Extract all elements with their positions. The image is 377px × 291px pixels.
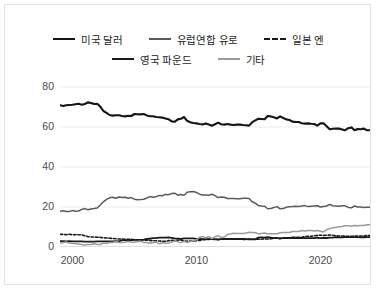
legend-label-other: 기타 xyxy=(246,52,266,67)
x-tick-label: 2000 xyxy=(52,254,92,266)
series-line-유럽연합 유로 xyxy=(60,192,370,212)
legend-item-jpy[interactable]: 일본 엔 xyxy=(264,32,324,47)
y-tick-label: 60 xyxy=(28,120,54,132)
legend-item-eur[interactable]: 유럽연합 유로 xyxy=(149,32,239,47)
legend-swatch-jpy xyxy=(264,38,286,40)
legend-row-2: 영국 파운드 기타 xyxy=(5,49,372,69)
legend-label-eur: 유럽연합 유로 xyxy=(177,32,239,47)
y-tick-label: 20 xyxy=(28,200,54,212)
legend-swatch-usd xyxy=(53,38,75,40)
legend-swatch-eur xyxy=(149,38,171,40)
y-tick-label: 40 xyxy=(28,160,54,172)
chart-screenshot: 미국 달러 유럽연합 유로 일본 엔 영국 파운드 기타 xyxy=(0,0,377,291)
series-line-미국 달러 xyxy=(60,102,370,130)
legend-label-gbp: 영국 파운드 xyxy=(140,52,192,67)
chart-canvas xyxy=(60,75,370,247)
y-tick-label: 80 xyxy=(28,80,54,92)
legend-label-jpy: 일본 엔 xyxy=(292,32,324,47)
chart-frame: 미국 달러 유럽연합 유로 일본 엔 영국 파운드 기타 xyxy=(4,4,371,285)
chart-legend: 미국 달러 유럽연합 유로 일본 엔 영국 파운드 기타 xyxy=(5,29,372,69)
legend-item-gbp[interactable]: 영국 파운드 xyxy=(112,52,192,67)
plot-area xyxy=(60,75,370,247)
legend-swatch-other xyxy=(218,58,240,60)
legend-row-1: 미국 달러 유럽연합 유로 일본 엔 xyxy=(5,29,372,49)
x-tick-label: 2010 xyxy=(176,254,216,266)
legend-swatch-gbp xyxy=(112,58,134,60)
x-tick-label: 2020 xyxy=(300,254,340,266)
y-tick-label: 0 xyxy=(28,240,54,252)
legend-item-usd[interactable]: 미국 달러 xyxy=(53,32,123,47)
legend-item-other[interactable]: 기타 xyxy=(218,52,266,67)
legend-label-usd: 미국 달러 xyxy=(81,32,123,47)
